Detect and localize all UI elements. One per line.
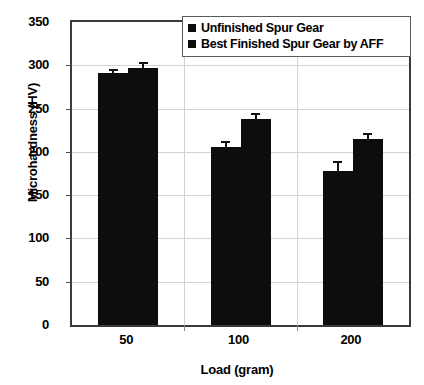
y-axis-tick-label: 50	[3, 274, 49, 289]
error-bar-cap	[363, 133, 372, 135]
square-marker-icon	[188, 40, 196, 48]
error-bar-cap	[333, 161, 342, 163]
legend-item: Unfinished Spur Gear	[188, 20, 405, 36]
x-axis-tick-label: 200	[321, 332, 381, 347]
y-axis-tick-label: 300	[3, 57, 49, 72]
legend-item-label: Unfinished Spur Gear	[201, 21, 324, 35]
y-axis-tick-label: 150	[3, 187, 49, 202]
gridline	[72, 65, 409, 66]
square-marker-icon	[188, 24, 196, 32]
chart-figure: Microhardness (HV) Load (gram) 050100150…	[0, 0, 424, 385]
gridline	[297, 22, 298, 325]
y-axis-tick-mark	[66, 152, 72, 153]
y-axis-tick-label: 100	[3, 230, 49, 245]
bar	[353, 139, 383, 325]
legend-item-label: Best Finished Spur Gear by AFF	[201, 37, 383, 51]
error-bar-cap	[139, 62, 148, 64]
legend-item: Best Finished Spur Gear by AFF	[188, 36, 405, 52]
y-axis-tick-label: 250	[3, 101, 49, 116]
x-axis-tick-label: 50	[96, 332, 156, 347]
y-axis-tick-mark	[66, 282, 72, 283]
y-axis-tick-label: 350	[3, 14, 49, 29]
y-axis-tick-label: 200	[3, 144, 49, 159]
error-bar-cap	[221, 141, 230, 143]
x-axis-title: Load (gram)	[62, 362, 412, 377]
chart-legend: Unfinished Spur Gear Best Finished Spur …	[182, 16, 411, 57]
y-axis-tick-mark	[66, 238, 72, 239]
x-axis-tick-label: 100	[209, 332, 269, 347]
error-bar-cap	[251, 113, 260, 115]
x-axis-tick-mark	[297, 325, 298, 331]
bar	[128, 68, 158, 325]
bar	[323, 171, 353, 325]
y-axis-tick-mark	[66, 109, 72, 110]
bar	[98, 73, 128, 325]
x-axis-tick-mark	[184, 325, 185, 331]
y-axis-tick-mark	[66, 195, 72, 196]
gridline	[184, 22, 185, 325]
y-axis-tick-mark	[66, 65, 72, 66]
y-axis-tick-label: 0	[3, 317, 49, 332]
error-bar-cap	[109, 69, 118, 71]
bar	[241, 119, 271, 325]
plot-area: 050100150200250300350 Unfinished Spur Ge…	[70, 20, 411, 327]
bar	[211, 147, 241, 325]
